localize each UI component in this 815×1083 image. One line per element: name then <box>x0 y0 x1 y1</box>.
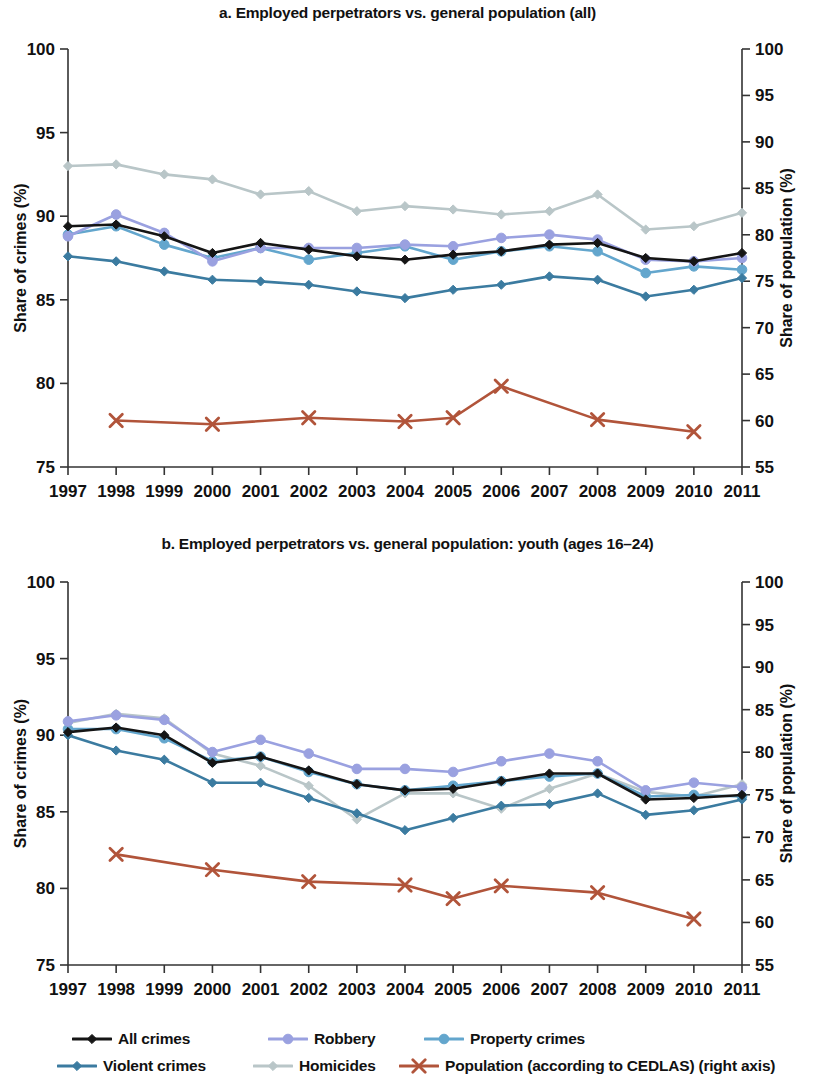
marker-diamond <box>304 187 313 196</box>
marker-circle <box>111 710 121 720</box>
series-point-homicides <box>545 207 554 216</box>
marker-diamond <box>400 255 409 264</box>
series-point-homicides <box>352 207 361 216</box>
legend-row: All crimesRobberyProperty crimes <box>0 1026 815 1052</box>
x-tick-label: 2008 <box>579 980 617 999</box>
right-tick-label: 70 <box>755 319 774 338</box>
series-point-robbery <box>496 756 506 766</box>
right-tick-label: 65 <box>755 365 774 384</box>
left-tick-label: 85 <box>36 291 55 310</box>
panel-b-plot: 7580859095100556065707580859095100199719… <box>0 533 815 1023</box>
series-point-violent_crimes <box>160 267 169 276</box>
legend-row: Violent crimesHomicidesPopulation (accor… <box>0 1053 815 1079</box>
series-point-violent_crimes <box>689 806 698 815</box>
right-tick-label: 70 <box>755 828 774 847</box>
right-tick-label: 75 <box>755 786 774 805</box>
series-line-robbery <box>68 715 742 790</box>
x-tick-label: 2009 <box>627 482 665 501</box>
right-tick-label: 55 <box>755 956 774 975</box>
series-point-violent_crimes <box>304 280 313 289</box>
legend-item-robbery[interactable]: Robbery <box>268 1026 375 1052</box>
series-point-property_crimes <box>641 268 651 278</box>
legend-item-homicides[interactable]: Homicides <box>253 1053 376 1079</box>
marker-diamond <box>208 778 217 787</box>
legend-marker-circle-icon <box>283 1034 293 1044</box>
x-tick-label: 2001 <box>242 980 280 999</box>
chart-panel-b: b. Employed perpetrators vs. general pop… <box>0 533 815 1023</box>
series-point-property_crimes <box>304 255 314 265</box>
x-tick-label: 2004 <box>386 980 424 999</box>
series-population <box>110 848 700 925</box>
legend-swatch-population-icon <box>399 1058 439 1074</box>
series-point-robbery <box>352 764 362 774</box>
marker-diamond <box>63 222 72 231</box>
legend-item-all_crimes[interactable]: All crimes <box>72 1026 190 1052</box>
series-point-violent_crimes <box>449 285 458 294</box>
series-point-homicides <box>497 210 506 219</box>
legend-swatch-property_crimes-icon <box>424 1031 464 1047</box>
series-point-robbery <box>641 786 651 796</box>
right-tick-label: 85 <box>755 701 774 720</box>
legend-item-violent_crimes[interactable]: Violent crimes <box>57 1053 206 1079</box>
x-tick-label: 2002 <box>290 980 328 999</box>
marker-circle <box>63 231 73 241</box>
legend-item-population[interactable]: Population (according to CEDLAS) (right … <box>399 1053 775 1079</box>
right-tick-label: 95 <box>755 86 774 105</box>
legend-marker-circle-icon <box>439 1034 449 1044</box>
marker-diamond <box>449 813 458 822</box>
series-point-violent_crimes <box>545 272 554 281</box>
left-tick-label: 100 <box>27 40 55 59</box>
right-tick-label: 80 <box>755 743 774 762</box>
marker-circle <box>496 233 506 243</box>
series-point-homicides <box>160 170 169 179</box>
x-tick-label: 1997 <box>49 980 87 999</box>
marker-diamond <box>641 810 650 819</box>
marker-diamond <box>352 287 361 296</box>
marker-diamond <box>63 161 72 170</box>
x-tick-label: 2010 <box>675 980 713 999</box>
x-tick-label: 2005 <box>434 482 472 501</box>
series-point-all_crimes <box>400 255 409 264</box>
right-tick-label: 85 <box>755 179 774 198</box>
marker-circle <box>400 240 410 250</box>
marker-circle <box>439 1034 449 1044</box>
marker-diamond <box>72 1061 81 1070</box>
marker-circle <box>689 778 699 788</box>
marker-diamond <box>112 746 121 755</box>
marker-circle <box>400 764 410 774</box>
series-point-robbery <box>448 767 458 777</box>
series-violent_crimes <box>63 731 746 835</box>
series-point-violent_crimes <box>160 755 169 764</box>
marker-diamond <box>304 793 313 802</box>
series-point-homicides <box>737 208 746 217</box>
x-tick-label: 2002 <box>290 482 328 501</box>
series-point-robbery <box>256 735 266 745</box>
series-point-robbery <box>400 240 410 250</box>
marker-circle <box>352 764 362 774</box>
series-point-violent_crimes <box>256 277 265 286</box>
left-tick-label: 95 <box>36 124 55 143</box>
marker-diamond <box>160 170 169 179</box>
legend-swatch-robbery-icon <box>268 1031 308 1047</box>
series-point-violent_crimes <box>256 778 265 787</box>
series-point-homicides <box>63 161 72 170</box>
marker-diamond <box>256 190 265 199</box>
marker-circle <box>545 230 555 240</box>
marker-diamond <box>160 755 169 764</box>
left-tick-label: 85 <box>36 803 55 822</box>
series-point-robbery <box>593 756 603 766</box>
x-tick-label: 2007 <box>531 482 569 501</box>
marker-diamond <box>352 207 361 216</box>
marker-circle <box>641 786 651 796</box>
right-tick-label: 60 <box>755 913 774 932</box>
marker-circle <box>256 735 266 745</box>
left-tick-label: 75 <box>36 458 55 477</box>
x-tick-label: 1998 <box>97 980 135 999</box>
x-tick-label: 2006 <box>482 482 520 501</box>
right-tick-label: 90 <box>755 133 774 152</box>
series-point-violent_crimes <box>352 287 361 296</box>
marker-diamond <box>689 285 698 294</box>
marker-diamond <box>400 826 409 835</box>
legend-item-property_crimes[interactable]: Property crimes <box>424 1026 585 1052</box>
chart-legend: All crimesRobberyProperty crimes Violent… <box>0 1026 815 1083</box>
